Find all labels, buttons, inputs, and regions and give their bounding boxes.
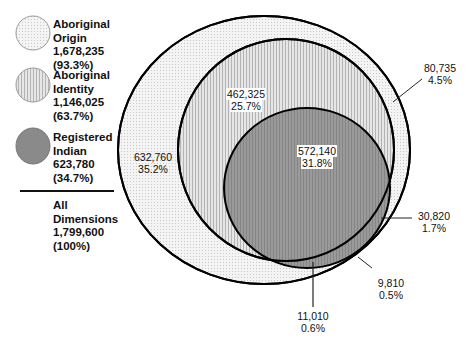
region-origin-registered-label: 11,010 0.6% [293, 310, 333, 334]
legend-origin-swatch [16, 16, 50, 50]
leader-9810 [358, 257, 372, 268]
region-origin-only-label: 632,760 35.2% [128, 151, 178, 175]
legend-identity-swatch [16, 68, 50, 102]
region-identity-only-label: 80,735 4.5% [418, 62, 462, 86]
legend-identity: Aboriginal Identity 1,146,025 (63.7%) [53, 69, 110, 123]
legend-registered-swatch [16, 128, 50, 164]
registered-circle [224, 108, 390, 268]
legend-total: All Dimensions 1,799,600 (100%) [53, 199, 118, 253]
legend-registered: Registered Indian 623,780 (34.7%) [53, 131, 112, 185]
region-all-three-label: 572,140 31.8% [290, 145, 344, 169]
region-origin-identity-label: 462,325 25.7% [219, 88, 273, 112]
region-registered-only-label: 9,810 0.5% [371, 277, 411, 301]
legend-origin: Aboriginal Origin 1,678,235 (93.3%) [53, 18, 110, 72]
region-identity-registered-label: 30,820 1.7% [412, 210, 456, 234]
